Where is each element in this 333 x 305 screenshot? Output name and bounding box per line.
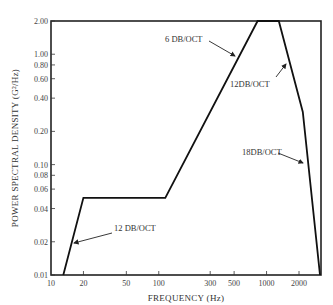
- y-tick-label: 0.06: [34, 185, 48, 194]
- y-tick-label: 0.02: [34, 238, 48, 247]
- y-axis-ticks: 0.010.020.040.060.080.100.200.400.600.80…: [34, 17, 55, 280]
- y-tick-label: 2.00: [34, 17, 48, 26]
- x-tick-label: 10: [47, 279, 55, 288]
- x-axis-ticks: 10205010030050010002000: [47, 271, 307, 288]
- y-tick-label: 0.10: [34, 161, 48, 170]
- y-tick-label: 0.04: [34, 205, 48, 214]
- y-tick-label: 0.08: [34, 171, 48, 180]
- annotation-12db-high-label: 12DB/OCT: [230, 79, 270, 89]
- y-tick-label: 0.01: [34, 271, 48, 280]
- y-tick-label: 0.60: [34, 75, 48, 84]
- annotation-6db-label: 6 DB/OCT: [165, 34, 203, 44]
- y-tick-label: 0.20: [34, 127, 48, 136]
- x-tick-label: 2000: [291, 279, 307, 288]
- y-tick-label: 0.40: [34, 94, 48, 103]
- y-tick-label: 0.80: [34, 61, 48, 70]
- x-tick-label: 300: [204, 279, 216, 288]
- annotation-6db: 6 DB/OCT: [165, 34, 235, 56]
- annotation-18db: 18DB/OCT: [242, 147, 303, 163]
- y-tick-label: 1.00: [34, 50, 48, 59]
- annotation-18db-label: 18DB/OCT: [242, 147, 282, 157]
- x-tick-label: 20: [79, 279, 87, 288]
- x-axis-title: FREQUENCY (Hz): [148, 293, 225, 303]
- x-tick-label: 1000: [259, 279, 275, 288]
- x-tick-label: 500: [228, 279, 240, 288]
- psd-chart: 10205010030050010002000 0.010.020.040.06…: [0, 0, 333, 305]
- x-tick-label: 100: [153, 279, 165, 288]
- annotation-12db-low: 12 DB/OCT: [74, 223, 157, 243]
- x-tick-label: 50: [122, 279, 130, 288]
- y-axis-title: POWER SPECTRAL DENSITY (G²/Hz): [10, 69, 20, 227]
- annotation-12db-low-label: 12 DB/OCT: [114, 223, 157, 233]
- annotation-12db-high: 12DB/OCT: [230, 64, 286, 89]
